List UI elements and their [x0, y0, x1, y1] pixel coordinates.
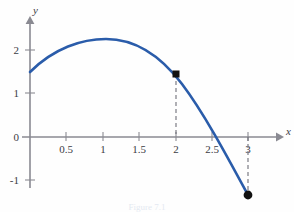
figure-caption: Figure 7.1 — [0, 200, 294, 212]
x-axis-label: x — [285, 125, 291, 137]
y-axis-arrowhead — [26, 16, 35, 24]
x-tick-label-1: 1 — [100, 143, 106, 155]
x-tick-label-1.5: 1.5 — [132, 143, 146, 155]
figure-container: 0.5 1 1.5 2 2.5 3 2 1 0 -1 y x Figure 7.… — [0, 0, 294, 212]
graph-plot: 0.5 1 1.5 2 2.5 3 2 1 0 -1 y x — [0, 0, 294, 212]
x-tick-label-2.5: 2.5 — [205, 143, 219, 155]
curve-path — [30, 39, 248, 195]
y-tick-label-2: 2 — [14, 44, 20, 56]
marker-point-x2 — [173, 71, 180, 78]
y-tick-label-0: 0 — [14, 131, 20, 143]
marker-point-x3 — [244, 191, 253, 200]
x-tick-label-2: 2 — [173, 143, 179, 155]
y-tick-label-1: 1 — [14, 87, 20, 99]
y-axis-label: y — [32, 4, 38, 16]
x-tick-label-0.5: 0.5 — [59, 143, 73, 155]
x-axis-arrowhead — [276, 133, 284, 142]
y-tick-label--1: -1 — [10, 174, 19, 186]
